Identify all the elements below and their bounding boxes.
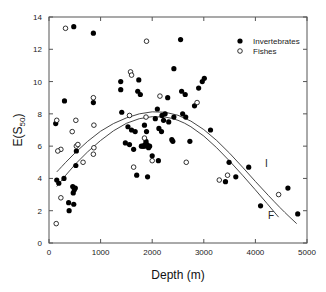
fish-point bbox=[217, 178, 222, 183]
fish-point bbox=[70, 129, 75, 134]
invertebrate-point bbox=[258, 203, 263, 208]
invertebrate-point bbox=[159, 129, 164, 134]
fish-point bbox=[59, 196, 64, 201]
x-axis-title: Depth (m) bbox=[151, 268, 204, 282]
invertebrate-point bbox=[71, 24, 76, 29]
y-axis-title: E(S50) bbox=[11, 114, 27, 147]
legend-invertebrates-label: Invertebrates bbox=[253, 37, 300, 46]
invertebrate-point bbox=[118, 79, 123, 84]
invertebrate-point bbox=[136, 77, 141, 82]
invertebrate-point bbox=[91, 31, 96, 36]
legend: Invertebrates Fishes bbox=[237, 37, 299, 56]
fish-point bbox=[150, 158, 155, 163]
fish-point bbox=[91, 95, 96, 100]
x-tick-label: 1000 bbox=[92, 248, 110, 257]
invertebrate-point bbox=[285, 186, 290, 191]
invertebrate-point bbox=[226, 160, 231, 165]
y-tick-label: 0 bbox=[38, 239, 43, 248]
invertebrate-point bbox=[196, 85, 201, 90]
invertebrate-point bbox=[223, 179, 228, 184]
invertebrate-point bbox=[165, 95, 170, 100]
legend-fishes-label: Fishes bbox=[253, 47, 277, 56]
invertebrate-point bbox=[73, 186, 78, 191]
y-axis-title-close: ) bbox=[11, 114, 25, 118]
invertebrate-point bbox=[150, 153, 155, 158]
fish-point bbox=[142, 136, 147, 141]
invertebrate-point bbox=[183, 114, 188, 119]
fish-point bbox=[91, 152, 96, 157]
invertebrate-point bbox=[142, 123, 147, 128]
invertebrate-point bbox=[138, 92, 143, 97]
fish-point bbox=[195, 100, 200, 105]
invertebrate-point bbox=[171, 114, 176, 119]
fish-point bbox=[92, 145, 97, 150]
fish-point bbox=[127, 113, 132, 118]
y-tick-label: 8 bbox=[38, 110, 43, 119]
x-tick-label: 0 bbox=[47, 248, 52, 257]
invertebrate-point bbox=[119, 110, 124, 115]
y-tick-label: 10 bbox=[33, 78, 42, 87]
x-tick-label: 3000 bbox=[195, 248, 213, 257]
invertebrate-point bbox=[145, 174, 150, 179]
invertebrate-point bbox=[127, 142, 132, 147]
x-tick-label: 4000 bbox=[247, 248, 265, 257]
x-tick-label: 2000 bbox=[143, 248, 161, 257]
invertebrate-point bbox=[153, 116, 158, 121]
fish-point bbox=[63, 26, 68, 31]
scatter-chart: 010002000300040005000 02468101214 Depth … bbox=[0, 0, 326, 292]
invertebrate-point bbox=[155, 106, 160, 111]
fish-point bbox=[81, 160, 86, 165]
fish-point bbox=[131, 165, 136, 170]
curve-label-i: I bbox=[265, 158, 268, 169]
invertebrate-point bbox=[118, 87, 123, 92]
invertebrate-point bbox=[134, 173, 139, 178]
invertebrate-point bbox=[74, 148, 79, 153]
curve-label-f: F bbox=[268, 210, 274, 221]
fish-point bbox=[276, 192, 281, 197]
invertebrate-point bbox=[67, 208, 72, 213]
fit-curve-f bbox=[57, 117, 279, 218]
invertebrate-point bbox=[156, 158, 161, 163]
invertebrate-point bbox=[202, 76, 207, 81]
legend-fishes-marker-icon bbox=[238, 49, 243, 54]
invertebrate-point bbox=[233, 174, 238, 179]
y-tick-label: 4 bbox=[38, 174, 43, 183]
fish-point bbox=[76, 142, 81, 147]
fish-point bbox=[74, 118, 79, 123]
invertebrate-point bbox=[61, 176, 66, 181]
invertebrate-point bbox=[170, 139, 175, 144]
fish-point bbox=[144, 115, 149, 120]
x-tick-label: 5000 bbox=[298, 248, 316, 257]
y-tick-label: 6 bbox=[38, 142, 43, 151]
fish-point bbox=[184, 160, 189, 165]
invertebrate-point bbox=[295, 211, 300, 216]
invertebrate-point bbox=[171, 66, 176, 71]
invertebrate-point bbox=[246, 165, 251, 170]
invertebrate-point bbox=[73, 163, 78, 168]
invertebrate-point bbox=[91, 100, 96, 105]
fish-point bbox=[225, 173, 230, 178]
invertebrate-point bbox=[133, 129, 138, 134]
invertebrate-point bbox=[159, 113, 164, 118]
invertebrate-point bbox=[166, 119, 171, 124]
invertebrate-point bbox=[56, 181, 61, 186]
invertebrate-point bbox=[71, 202, 76, 207]
y-axis-title-main: E(S bbox=[11, 126, 25, 146]
invertebrate-point bbox=[161, 118, 166, 123]
fish-point bbox=[54, 118, 59, 123]
fish-point bbox=[129, 73, 134, 78]
y-tick-label: 14 bbox=[33, 13, 42, 22]
invertebrate-point bbox=[183, 92, 188, 97]
invertebrate-point bbox=[144, 129, 149, 134]
fish-point bbox=[144, 39, 149, 44]
invertebrate-point bbox=[131, 147, 136, 152]
invertebrate-point bbox=[178, 37, 183, 42]
invertebrate-point bbox=[62, 98, 67, 103]
invertebrate-point bbox=[187, 139, 192, 144]
invertebrate-point bbox=[208, 127, 213, 132]
legend-invertebrates-marker-icon bbox=[237, 38, 242, 43]
y-tick-label: 12 bbox=[33, 45, 42, 54]
invertebrate-point bbox=[71, 190, 76, 195]
fish-point bbox=[54, 221, 59, 226]
y-tick-label: 2 bbox=[38, 207, 43, 216]
